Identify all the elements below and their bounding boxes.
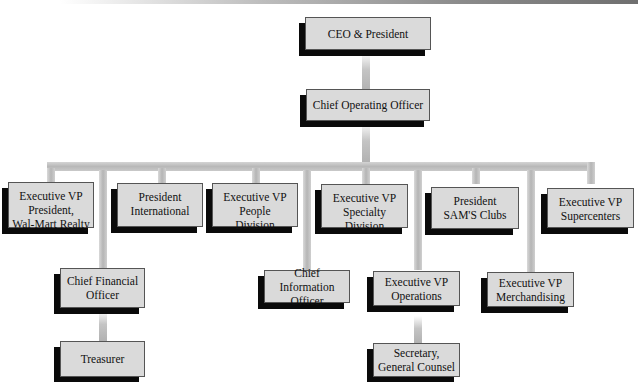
node-label: Executive VP Specialty Division bbox=[333, 191, 396, 233]
node-label: President SAM'S Clubs bbox=[443, 194, 506, 222]
connector-cio bbox=[303, 170, 311, 270]
node-people: Executive VP People Division bbox=[212, 183, 298, 227]
connector-drop-people bbox=[252, 168, 260, 184]
node-cio: Chief Information Officer bbox=[264, 270, 350, 303]
node-international: President International bbox=[117, 183, 203, 227]
node-label: Chief Financial Officer bbox=[67, 274, 138, 302]
node-label: Chief Operating Officer bbox=[313, 98, 423, 112]
node-label: President International bbox=[131, 190, 190, 218]
node-label: Executive VP Supercenters bbox=[559, 195, 622, 223]
connector-ceo-coo bbox=[362, 52, 370, 92]
node-specialty: Executive VP Specialty Division bbox=[321, 184, 408, 228]
node-operations: Executive VP Operations bbox=[373, 271, 460, 306]
connector-drop-supercenters bbox=[587, 162, 595, 184]
node-label: CEO & President bbox=[328, 27, 409, 41]
node-sams: President SAM'S Clubs bbox=[431, 187, 519, 229]
node-ceo: CEO & President bbox=[305, 17, 431, 50]
connector-merchandising bbox=[527, 170, 535, 273]
node-label: Executive VP People Division bbox=[223, 190, 286, 232]
connector-coo-bar bbox=[362, 122, 370, 164]
connector-operations bbox=[414, 170, 422, 270]
top-rule bbox=[60, 0, 638, 4]
node-label: Executive VP Merchandising bbox=[496, 276, 565, 304]
node-coo: Chief Operating Officer bbox=[306, 89, 430, 121]
node-label: Secretary, General Counsel bbox=[378, 346, 455, 374]
node-label: Executive VP President, Wal-Mart Realty bbox=[12, 189, 89, 231]
node-cfo: Chief Financial Officer bbox=[60, 268, 145, 308]
node-secretary: Secretary, General Counsel bbox=[373, 343, 460, 377]
connector-horizontal-bar bbox=[47, 162, 595, 171]
node-realty: Executive VP President, Wal-Mart Realty bbox=[8, 182, 94, 228]
node-merchandising: Executive VP Merchandising bbox=[487, 272, 574, 307]
connector-cfo-treasurer bbox=[99, 310, 107, 342]
connector-drop-sams bbox=[472, 168, 480, 184]
node-label: Chief Information Officer bbox=[268, 266, 346, 308]
node-label: Executive VP Operations bbox=[385, 275, 448, 303]
connector-cfo bbox=[99, 170, 107, 270]
node-label: Treasurer bbox=[81, 352, 125, 366]
node-treasurer: Treasurer bbox=[60, 341, 145, 377]
node-supercenters: Executive VP Supercenters bbox=[547, 188, 634, 228]
connector-ops-secretary bbox=[414, 316, 422, 344]
connector-drop-international bbox=[158, 168, 166, 184]
connector-drop-specialty bbox=[362, 168, 370, 184]
